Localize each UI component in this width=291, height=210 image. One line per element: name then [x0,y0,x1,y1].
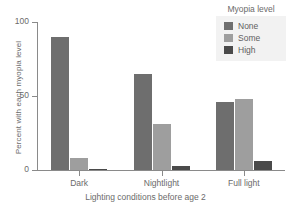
legend-item-label: High [238,45,255,55]
y-tick-label: 50 [0,90,29,100]
legend-item-label: Some [238,33,260,43]
bar-dark-none [51,37,69,170]
legend-swatch-icon [224,34,233,42]
y-tick-label: 100 [0,16,29,26]
bar-dark-some [70,158,88,170]
y-tick-label: 0 [0,164,29,174]
legend-item-none[interactable]: None [224,20,282,31]
x-tick-mark [244,171,245,176]
bar-full-light-high [254,161,272,170]
legend: NoneSomeHigh [216,16,286,61]
bar-full-light-none [216,102,234,170]
x-tick-label: Dark [39,178,119,188]
x-tick-label: Full light [204,178,284,188]
legend-swatch-icon [224,46,233,54]
legend-item-label: None [238,21,258,31]
x-axis-title: Lighting conditions before age 2 [0,192,291,202]
legend-item-some[interactable]: Some [224,32,282,43]
bar-nightlight-some [153,124,171,170]
y-tick-mark [32,96,37,97]
bar-chart: Percent with each myopia level 050100 Da… [0,0,291,210]
legend-swatch-icon [224,22,233,30]
x-tick-mark [79,171,80,176]
legend-title: Myopia level [212,4,290,14]
bar-nightlight-none [134,74,152,170]
y-tick-mark [32,22,37,23]
legend-item-high[interactable]: High [224,44,282,55]
x-tick-mark [162,171,163,176]
bar-full-light-some [235,99,253,170]
x-tick-label: Nightlight [122,178,202,188]
